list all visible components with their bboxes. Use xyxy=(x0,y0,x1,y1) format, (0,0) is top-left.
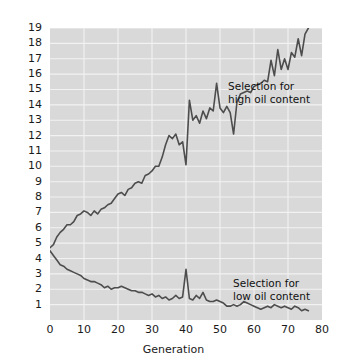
x-tick-label: 0 xyxy=(47,324,54,336)
x-tick-label: 30 xyxy=(145,324,159,336)
y-tick-label: 2 xyxy=(35,283,42,294)
y-tick-label: 9 xyxy=(35,176,42,187)
y-tick-label: 19 xyxy=(28,22,42,33)
y-tick-label: 1 xyxy=(35,299,42,310)
plot-area: Selection for high oil content Selection… xyxy=(50,28,322,320)
series-line xyxy=(50,28,308,248)
y-tick-label: 17 xyxy=(28,53,42,64)
y-tick-label: 10 xyxy=(28,160,42,171)
annotation-low-oil-content: Selection for low oil content xyxy=(233,277,310,302)
x-tick-label: 80 xyxy=(315,324,329,336)
y-tick-label: 6 xyxy=(35,222,42,233)
x-tick-label: 60 xyxy=(247,324,261,336)
y-tick-label: 4 xyxy=(35,253,42,264)
y-tick-label: 8 xyxy=(35,191,42,202)
y-axis-ticks: 12345678910111213141516171819 xyxy=(0,28,46,320)
y-tick-label: 14 xyxy=(28,99,42,110)
x-tick-label: 10 xyxy=(77,324,91,336)
y-tick-label: 13 xyxy=(28,114,42,125)
x-axis-title: Generation xyxy=(0,343,347,356)
y-tick-label: 5 xyxy=(35,237,42,248)
y-tick-label: 15 xyxy=(28,83,42,94)
y-tick-label: 18 xyxy=(28,37,42,48)
y-tick-label: 7 xyxy=(35,206,42,217)
x-tick-label: 40 xyxy=(179,324,193,336)
y-tick-label: 12 xyxy=(28,130,42,141)
x-tick-label: 70 xyxy=(281,324,295,336)
y-tick-label: 16 xyxy=(28,68,42,79)
y-tick-label: 3 xyxy=(35,268,42,279)
x-tick-label: 20 xyxy=(111,324,125,336)
x-tick-label: 50 xyxy=(213,324,227,336)
y-tick-label: 11 xyxy=(28,145,42,156)
x-axis-ticks: 01020304050607080 xyxy=(50,324,322,340)
annotation-high-oil-content: Selection for high oil content xyxy=(228,80,310,105)
oil-content-selection-chart: Percentage of oil content 12345678910111… xyxy=(0,0,347,364)
